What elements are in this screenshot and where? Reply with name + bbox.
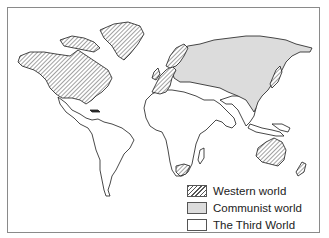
region-madagascar [198, 148, 204, 164]
grey-swatch-icon [187, 202, 207, 214]
region-australia [256, 138, 286, 166]
legend-label: The Third World [213, 219, 295, 231]
region-new-zealand [296, 162, 306, 176]
region-canadian-arctic [60, 36, 100, 52]
map-legend: Western world Communist world The Third … [187, 182, 302, 233]
region-south-africa [176, 164, 190, 176]
legend-item-third-world: The Third World [187, 216, 302, 233]
hatched-swatch-icon [187, 185, 207, 197]
legend-label: Western world [213, 185, 286, 197]
region-greenland [100, 22, 144, 60]
white-swatch-icon [187, 219, 207, 231]
region-north-america [18, 50, 112, 104]
legend-item-communist: Communist world [187, 199, 302, 216]
region-africa-middle-east [144, 90, 236, 176]
legend-item-western: Western world [187, 182, 302, 199]
legend-label: Communist world [213, 202, 302, 214]
region-cuba [90, 110, 100, 112]
